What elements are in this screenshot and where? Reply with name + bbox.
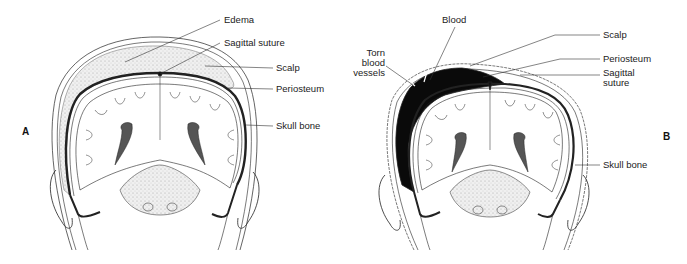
diagram-canvas (0, 0, 687, 264)
label-skull-bone: Skull bone (603, 160, 647, 170)
cerebellum (120, 165, 200, 215)
label-sagittal-suture: Sagittal suture (224, 38, 285, 48)
right-ear (238, 172, 259, 228)
label-periosteum: Periosteum (276, 84, 324, 94)
label-skull-bone: Skull bone (276, 121, 320, 131)
left-ear (379, 175, 400, 230)
panel-a-letter: A (22, 126, 29, 137)
label-blood: Blood (442, 15, 466, 25)
panel-b-letter: B (663, 131, 670, 142)
panel-b-illustration (379, 64, 589, 250)
label-torn-blood-vessels: Torn blood vessels (349, 48, 385, 78)
left-ear (50, 170, 72, 228)
label-edema: Edema (224, 15, 254, 25)
panel-a-illustration (50, 37, 259, 250)
label-scalp: Scalp (276, 63, 300, 73)
cerebellum (450, 170, 530, 217)
label-periosteum: Periosteum (603, 54, 651, 64)
label-scalp: Scalp (603, 30, 627, 40)
label-sagittal-suture: Sagittal suture (603, 68, 635, 88)
